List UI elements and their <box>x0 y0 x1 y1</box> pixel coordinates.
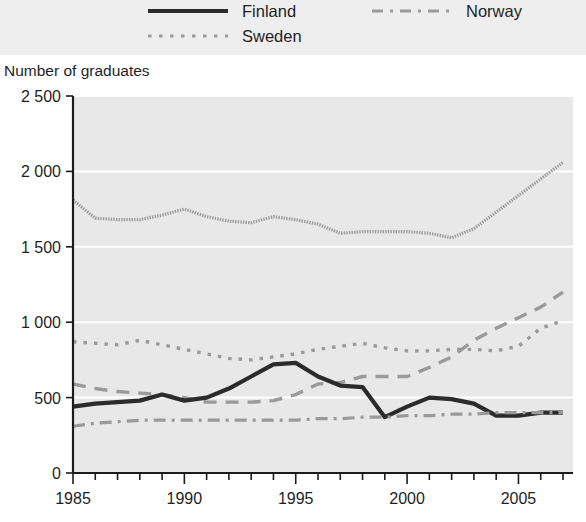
chart-page: Finland Norway Sweden Number of graduate… <box>0 0 586 522</box>
y-axis-title: Number of graduates <box>4 62 150 80</box>
legend-item-finland[interactable]: Finland <box>148 3 296 20</box>
legend-swatch-norway-dashdot-icon <box>372 4 452 18</box>
y-axis-tick-label: 0 <box>52 465 61 482</box>
x-axis-tick-label: 2005 <box>501 490 537 507</box>
legend-swatch-finland-solid-icon <box>148 4 228 18</box>
y-axis-tick-label: 2 500 <box>21 88 61 105</box>
y-axis-tick-label: 1 000 <box>21 314 61 331</box>
chart-legend: Finland Norway Sweden <box>0 0 586 55</box>
legend-label-norway: Norway <box>466 3 522 20</box>
legend-item-sweden[interactable]: Sweden <box>148 28 302 45</box>
legend-label-sweden: Sweden <box>242 28 302 45</box>
y-axis-tick-label: 500 <box>34 390 61 407</box>
y-axis-tick-label: 2 000 <box>21 163 61 180</box>
legend-swatch-sweden-dotted-icon <box>148 29 228 43</box>
x-axis-tick-label: 1995 <box>278 490 314 507</box>
plot-area: 05001 0001 5002 0002 5001985199019952000… <box>0 80 586 522</box>
x-axis-tick-label: 2000 <box>389 490 425 507</box>
y-axis-tick-label: 1 500 <box>21 239 61 256</box>
x-axis-tick-label: 1990 <box>167 490 203 507</box>
legend-item-norway[interactable]: Norway <box>372 3 522 20</box>
x-axis-tick-label: 1985 <box>55 490 91 507</box>
line-chart: 05001 0001 5002 0002 5001985199019952000… <box>0 80 586 522</box>
legend-label-finland: Finland <box>242 3 296 20</box>
